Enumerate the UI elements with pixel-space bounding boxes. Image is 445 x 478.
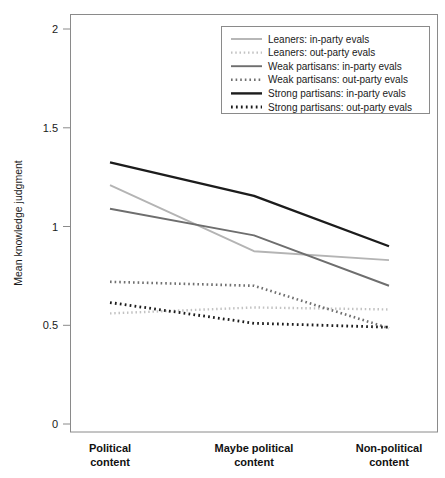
legend-label-2: Weak partisans: in-party evals [268, 61, 402, 72]
x-category-1-line-0: Maybe political [215, 442, 294, 454]
x-category-2-line-0: Non-political [356, 442, 423, 454]
legend-label-5: Strong partisans: out-party evals [268, 102, 412, 113]
chart-legend: Leaners: in-party evalsLeaners: out-part… [222, 27, 430, 114]
x-category-0-line-1: content [90, 456, 130, 468]
y-axis-title: Mean knowledge judgment [12, 160, 24, 286]
line-chart-figure: Mean knowledge judgment 2 1.5 1 0.5 0 Po… [0, 0, 445, 478]
legend-label-4: Strong partisans: in-party evals [268, 88, 406, 99]
legend-label-3: Weak partisans: out-party evals [268, 74, 408, 85]
y-tick-label-0: 0 [52, 418, 58, 430]
legend-label-1: Leaners: out-party evals [268, 47, 375, 58]
x-category-2-line-1: content [369, 456, 409, 468]
y-tick-label-4: 2 [52, 23, 58, 35]
y-tick-label-1: 0.5 [43, 319, 58, 331]
y-tick-label-3: 1.5 [43, 122, 58, 134]
x-category-1-line-1: content [234, 456, 274, 468]
x-category-0-line-0: Political [89, 442, 131, 454]
y-tick-label-2: 1 [52, 221, 58, 233]
legend-label-0: Leaners: in-party evals [268, 34, 369, 45]
